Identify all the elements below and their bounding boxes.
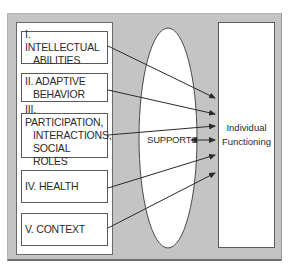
dimension-label-line1: II. ADAPTIVE xyxy=(25,75,107,88)
dimension-box-health: IV. HEALTH xyxy=(21,170,108,203)
dimension-label-line2: ABILITIES xyxy=(25,54,107,67)
dimension-box-adaptive-behavior: II. ADAPTIVE BEHAVIOR xyxy=(21,73,108,102)
dimension-box-context: V. CONTEXT xyxy=(21,213,108,246)
dimension-label-line1: I. INTELLECTUAL xyxy=(25,28,107,54)
dimension-label-line1: V. CONTEXT xyxy=(25,223,107,236)
dimension-box-intellectual-abilities: I. INTELLECTUAL ABILITIES xyxy=(21,31,108,64)
dimension-label-line2: INTERACTIONS, xyxy=(25,129,107,142)
outcome-label-line1: Individual xyxy=(226,121,266,135)
dimension-box-participation: III. PARTICIPATION, INTERACTIONS, SOCIAL… xyxy=(21,113,108,158)
dimension-label-line1: III. PARTICIPATION, xyxy=(25,103,107,129)
dimension-label-line3: SOCIAL ROLES xyxy=(25,142,107,168)
dimension-label-line1: IV. HEALTH xyxy=(25,180,107,193)
dimension-label-line2: BEHAVIOR xyxy=(25,88,107,101)
outcome-label-line2: Functioning xyxy=(222,135,271,149)
supports-label: SUPPORTS xyxy=(147,134,198,145)
individual-functioning-box: Individual Functioning xyxy=(218,22,275,248)
